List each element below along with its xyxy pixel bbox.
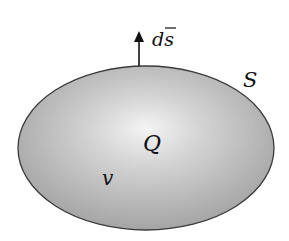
- surface-label: S: [243, 68, 257, 92]
- surface-element-label: ds: [152, 28, 174, 50]
- surface-normal-arrow-icon: [134, 31, 144, 66]
- charge-label: Q: [143, 131, 161, 156]
- volume-label: v: [102, 166, 114, 190]
- gauss-surface-diagram: ds S Q v: [0, 0, 289, 241]
